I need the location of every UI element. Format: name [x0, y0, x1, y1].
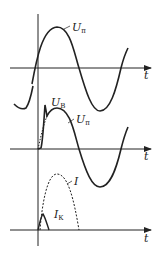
axis-label-t-2: t: [144, 150, 149, 163]
label-un-1: Uп: [72, 21, 86, 35]
leader-line: [64, 26, 70, 29]
label-un-2: Uп: [76, 113, 90, 127]
waveform-diagram: Uп t UВ Uп t I IК t: [0, 0, 159, 254]
panel-2: UВ Uп t: [10, 86, 151, 187]
short-current-pulse: [38, 214, 49, 230]
label-ub: UВ: [51, 96, 65, 110]
supply-voltage-curve-1: [32, 27, 128, 111]
axis-label-t-3: t: [144, 232, 149, 245]
supply-voltage-curve-1-tail: [14, 86, 33, 109]
panel-1: Uп t: [10, 21, 151, 111]
panel-3: I IК t: [10, 174, 151, 245]
axis-label-t-1: t: [144, 69, 149, 82]
label-ik: IК: [53, 208, 64, 222]
label-i: I: [73, 175, 79, 188]
leader-line: [67, 181, 72, 184]
